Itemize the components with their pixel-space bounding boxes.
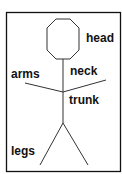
left-leg-line (40, 123, 63, 165)
label-head: head (86, 31, 114, 45)
stick-figure-diagram: head neck arms trunk legs (0, 0, 122, 174)
left-arm-line (25, 83, 63, 92)
label-neck: neck (70, 64, 98, 78)
right-arm-line (63, 80, 106, 92)
label-legs: legs (11, 144, 35, 158)
label-arms: arms (11, 67, 40, 81)
head-octagon (47, 19, 79, 59)
label-trunk: trunk (69, 93, 99, 107)
right-leg-line (63, 123, 88, 165)
